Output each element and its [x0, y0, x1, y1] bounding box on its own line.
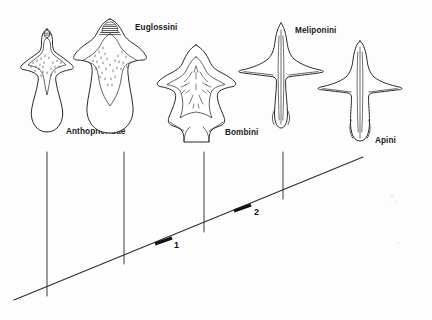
- node-label-1: 1: [174, 240, 179, 250]
- glossa-euglossini: [74, 19, 147, 133]
- tree-trunk-line: [14, 157, 363, 300]
- taxon-label-apini: Apini: [375, 136, 396, 145]
- glossa-apini: [318, 41, 402, 141]
- cladogram-tree: [14, 152, 363, 300]
- taxon-label-meliponini: Meliponini: [295, 26, 336, 35]
- glossa-anthophoridae: [21, 29, 73, 132]
- node-label-2: 2: [254, 207, 259, 217]
- cladogram-figure: Anthophoridae Euglossini Bombini: [0, 0, 432, 320]
- glossa-bombini: [157, 45, 235, 142]
- glossa-meliponini: [239, 23, 324, 128]
- taxon-label-bombini: Bombini: [225, 128, 258, 137]
- taxon-label-euglossini: Euglossini: [135, 23, 177, 32]
